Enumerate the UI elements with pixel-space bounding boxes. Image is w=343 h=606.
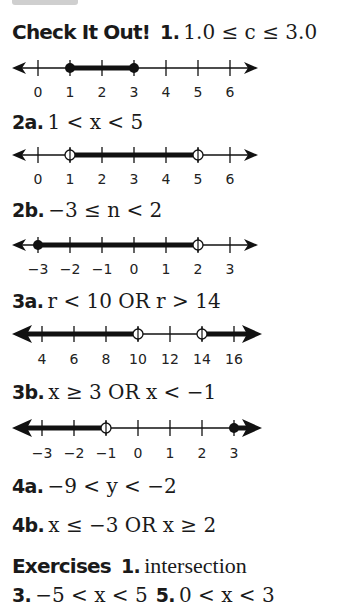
number-line-2a: 01 23 45 6 [0, 137, 280, 189]
item-2b-label: 2b. [12, 199, 44, 221]
item-3b-expression: x ≥ 3 OR x < −1 [48, 380, 216, 404]
svg-text:6: 6 [70, 351, 79, 367]
svg-text:6: 6 [226, 84, 235, 100]
number-line-1: 01 23 45 6 [0, 50, 280, 102]
svg-text:3: 3 [230, 445, 239, 461]
svg-text:2: 2 [98, 84, 107, 100]
svg-text:16: 16 [225, 351, 243, 367]
exercise-5-label: 5. [156, 584, 175, 606]
item-2a-expression: 1 < x < 5 [47, 110, 143, 134]
svg-text:3: 3 [226, 261, 235, 277]
svg-text:4: 4 [38, 351, 47, 367]
item-3a-line: 3a. r < 10 OR r > 14 [12, 289, 221, 313]
item-4a-line: 4a. −9 < y < −2 [12, 474, 177, 498]
exercise-5-expression: 0 < x < 3 [179, 583, 275, 606]
item-2b-expression: −3 ≤ n < 2 [48, 198, 162, 222]
svg-text:2: 2 [194, 261, 203, 277]
svg-text:6: 6 [226, 171, 235, 187]
exercises-heading: Exercises [12, 554, 111, 578]
svg-text:−1: −1 [96, 445, 117, 461]
number-line-3a: 46 810 1214 16 [0, 316, 280, 368]
item-3b-line: 3b. x ≥ 3 OR x < −1 [12, 380, 216, 404]
exercise-1-answer: intersection [144, 553, 247, 578]
svg-text:0: 0 [34, 84, 43, 100]
svg-text:5: 5 [194, 171, 203, 187]
item-3a-expression: r < 10 OR r > 14 [47, 289, 220, 313]
exercise-1-label: 1. [121, 555, 140, 577]
exercise-3-expression: −5 < x < 5 [35, 583, 147, 606]
svg-text:4: 4 [162, 84, 171, 100]
svg-text:0: 0 [134, 445, 143, 461]
check-it-out-heading: Check It Out! [12, 20, 150, 44]
section-tab-marker [12, 0, 78, 5]
svg-text:1: 1 [66, 171, 75, 187]
svg-text:−3: −3 [28, 261, 49, 277]
svg-text:−2: −2 [64, 445, 85, 461]
svg-text:−2: −2 [60, 261, 81, 277]
item-4a-expression: −9 < y < −2 [47, 474, 176, 498]
svg-text:8: 8 [102, 351, 111, 367]
svg-text:0: 0 [34, 171, 43, 187]
item-4b-label: 4b. [12, 514, 44, 536]
svg-text:5: 5 [194, 84, 203, 100]
item-4b-line: 4b. x ≤ −3 OR x ≥ 2 [12, 513, 216, 537]
svg-text:3: 3 [130, 84, 139, 100]
item-4a-label: 4a. [12, 475, 43, 497]
svg-text:0: 0 [130, 261, 139, 277]
number-line-3b: −3−2 −10 12 3 [0, 410, 280, 462]
number-line-2b: −3−2 −10 12 3 [0, 227, 280, 279]
item-4b-expression: x ≤ −3 OR x ≥ 2 [48, 513, 216, 537]
svg-text:−3: −3 [32, 445, 53, 461]
svg-text:3: 3 [130, 171, 139, 187]
item-3a-label: 3a. [12, 290, 43, 312]
svg-text:1: 1 [66, 84, 75, 100]
svg-text:14: 14 [193, 351, 211, 367]
exercise-3-label: 3. [12, 584, 31, 606]
item-3b-label: 3b. [12, 381, 44, 403]
item-1-label: 1. [160, 21, 179, 43]
svg-text:1: 1 [162, 261, 171, 277]
item-2a-line: 2a. 1 < x < 5 [12, 110, 143, 134]
item-1-expression: 1.0 ≤ c ≤ 3.0 [183, 20, 317, 44]
svg-text:12: 12 [161, 351, 179, 367]
svg-text:4: 4 [162, 171, 171, 187]
svg-text:10: 10 [129, 351, 147, 367]
svg-text:2: 2 [198, 445, 207, 461]
item-2a-label: 2a. [12, 111, 43, 133]
svg-text:−1: −1 [92, 261, 113, 277]
check-it-out-line: Check It Out! 1. 1.0 ≤ c ≤ 3.0 [12, 20, 317, 44]
svg-text:2: 2 [98, 171, 107, 187]
exercises-line-2: 3. −5 < x < 5 5. 0 < x < 3 [12, 583, 275, 606]
item-2b-line: 2b. −3 ≤ n < 2 [12, 198, 162, 222]
svg-text:1: 1 [166, 445, 175, 461]
exercises-line: Exercises 1. intersection [12, 553, 247, 579]
